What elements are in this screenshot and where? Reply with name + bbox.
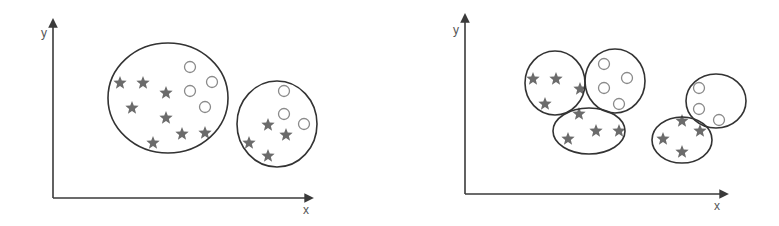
cluster-boundary (553, 108, 625, 154)
panel-five-clusters: yx (453, 15, 746, 213)
star-icon (261, 118, 274, 131)
cluster-2 (237, 81, 317, 167)
cluster-2 (585, 49, 645, 113)
star-icon (242, 136, 255, 149)
star-icon (175, 127, 188, 140)
star-icon (159, 86, 172, 99)
star-icon (538, 97, 551, 110)
circle-icon (279, 109, 290, 120)
star-icon (526, 72, 539, 85)
circle-icon (200, 102, 211, 113)
y-axis-label: y (41, 26, 47, 40)
panel-two-clusters: yx (41, 20, 317, 217)
circle-icon (185, 86, 196, 97)
circle-icon (185, 62, 196, 73)
x-axis-label: x (303, 203, 309, 217)
star-icon (675, 145, 688, 158)
x-axis-label: x (714, 199, 720, 213)
circle-icon (694, 83, 705, 94)
star-icon (561, 132, 574, 145)
circle-icon (279, 86, 290, 97)
star-icon (589, 124, 602, 137)
star-icon (549, 72, 562, 85)
star-icon (125, 101, 138, 114)
circle-icon (299, 119, 310, 130)
circle-icon (614, 99, 625, 110)
circle-icon (599, 83, 610, 94)
star-icon (146, 136, 159, 149)
cluster-boundary (108, 43, 228, 153)
star-icon (261, 149, 274, 162)
cluster-1 (525, 51, 587, 115)
circle-icon (599, 59, 610, 70)
circle-icon (207, 77, 218, 88)
cluster-1 (108, 43, 228, 153)
star-icon (279, 128, 292, 141)
star-icon (113, 76, 126, 89)
cluster-3 (553, 107, 626, 154)
cluster-boundary (237, 81, 317, 167)
circle-icon (714, 115, 725, 126)
circle-icon (622, 73, 633, 84)
star-icon (656, 132, 669, 145)
star-icon (159, 111, 172, 124)
clustering-diagram: yx yx (0, 0, 779, 226)
cluster-5 (652, 114, 712, 163)
circle-icon (694, 104, 705, 115)
star-icon (675, 114, 688, 127)
star-icon (136, 76, 149, 89)
y-axis-label: y (453, 23, 459, 37)
cluster-boundary (525, 51, 585, 115)
cluster-boundary (585, 49, 645, 113)
